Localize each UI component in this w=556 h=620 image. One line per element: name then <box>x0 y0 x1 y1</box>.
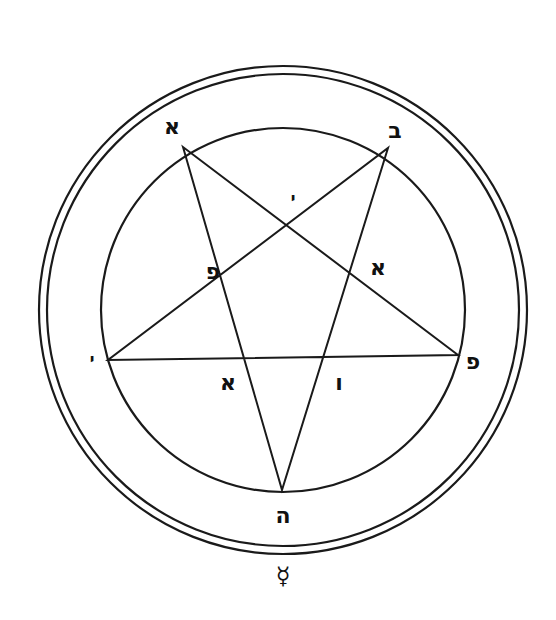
label-yod-top-center: י <box>291 191 296 207</box>
label-pe-right-outer: פ <box>466 351 480 373</box>
label-yod-left-outer: י <box>90 352 95 368</box>
inner-circle <box>101 128 465 492</box>
label-he-bottom: ה <box>275 505 290 527</box>
label-aleph-top-left: א <box>164 116 180 138</box>
label-pe-left-inner: פ <box>206 261 220 283</box>
outer-circle <box>39 66 527 554</box>
mercury-symbol-icon: ☿ <box>276 564 291 588</box>
label-bet-top-right: ב <box>388 120 401 142</box>
outer-circle-inner-ring <box>47 74 519 546</box>
pentagram-star <box>108 147 458 490</box>
label-vav-bottom-right: ו <box>335 372 343 394</box>
label-aleph-right-inner: א <box>370 257 386 279</box>
label-aleph-bottom-left: א <box>220 372 236 394</box>
